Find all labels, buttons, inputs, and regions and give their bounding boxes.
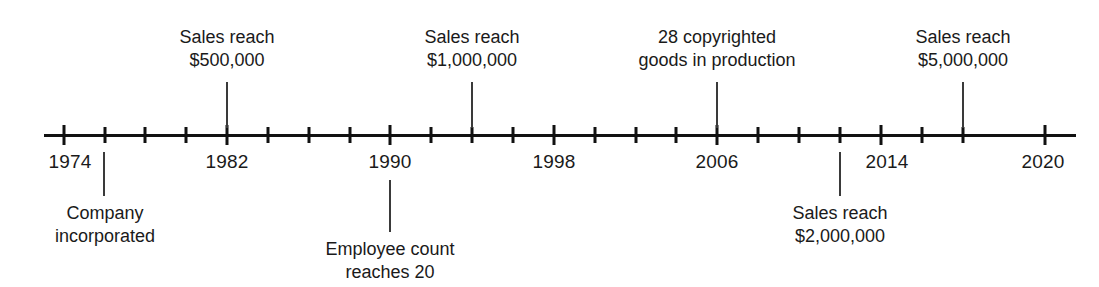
- axis-tick-1990: [389, 125, 392, 145]
- axis-tick-1996: [512, 127, 515, 143]
- year-label-1998: 1998: [532, 150, 575, 173]
- axis-tick-2020: [1044, 125, 1047, 145]
- axis-tick-2010: [798, 127, 801, 143]
- axis-tick-1986: [308, 127, 311, 143]
- timeline-figure: 1974198219901998200620142020 Sales reach…: [0, 0, 1099, 287]
- callout-line-1: Sales reach: [792, 202, 887, 225]
- axis-tick-1982: [226, 125, 229, 145]
- callout-line-2: $2,000,000: [792, 225, 887, 248]
- axis-tick-1976: [104, 127, 107, 143]
- callout-line-1: 28 copyrighted: [638, 26, 795, 49]
- axis-tick-2016: [921, 127, 924, 143]
- callout-sales-2m: Sales reach$2,000,000: [792, 202, 887, 248]
- leader-line-company-incorporated: [103, 152, 105, 196]
- axis-tick-2018: [962, 127, 965, 143]
- axis-tick-1984: [267, 127, 270, 143]
- axis-tick-1974: [63, 125, 66, 145]
- axis-tick-2002: [635, 127, 638, 143]
- callout-line-2: $5,000,000: [915, 49, 1010, 72]
- year-label-2020: 2020: [1021, 150, 1064, 173]
- callout-sales-500k: Sales reach$500,000: [179, 26, 274, 72]
- callout-line-2: incorporated: [55, 225, 155, 248]
- callout-line-1: Sales reach: [915, 26, 1010, 49]
- leader-line-sales-5m: [962, 82, 964, 128]
- callout-sales-5m: Sales reach$5,000,000: [915, 26, 1010, 72]
- axis-tick-2006: [716, 125, 719, 145]
- axis-tick-1992: [430, 127, 433, 143]
- year-label-2006: 2006: [695, 150, 738, 173]
- callout-line-2: reaches 20: [325, 261, 454, 284]
- callout-employee-count: Employee countreaches 20: [325, 238, 454, 284]
- axis-tick-1988: [349, 127, 352, 143]
- callout-line-1: Sales reach: [424, 26, 519, 49]
- callout-line-2: goods in production: [638, 49, 795, 72]
- callout-sales-1m: Sales reach$1,000,000: [424, 26, 519, 72]
- axis-tick-1980: [185, 127, 188, 143]
- callout-company-incorporated: Companyincorporated: [55, 202, 155, 248]
- axis-tick-2012: [839, 127, 842, 143]
- callout-line-2: $500,000: [179, 49, 274, 72]
- callout-copyrighted-goods: 28 copyrightedgoods in production: [638, 26, 795, 72]
- callout-line-2: $1,000,000: [424, 49, 519, 72]
- leader-line-copyrighted-goods: [716, 82, 718, 128]
- leader-line-employee-count: [389, 180, 391, 232]
- axis-tick-1998: [553, 125, 556, 145]
- axis-tick-2000: [594, 127, 597, 143]
- leader-line-sales-2m: [839, 152, 841, 196]
- axis-tick-1994: [471, 127, 474, 143]
- axis-tick-2014: [880, 125, 883, 145]
- year-label-1974: 1974: [48, 150, 91, 173]
- callout-line-1: Company: [55, 202, 155, 225]
- year-label-1990: 1990: [368, 150, 411, 173]
- callout-line-1: Employee count: [325, 238, 454, 261]
- axis-tick-1978: [144, 127, 147, 143]
- year-label-2014: 2014: [865, 150, 908, 173]
- axis-tick-2004: [675, 127, 678, 143]
- leader-line-sales-500k: [226, 82, 228, 128]
- callout-line-1: Sales reach: [179, 26, 274, 49]
- leader-line-sales-1m: [471, 82, 473, 128]
- year-label-1982: 1982: [205, 150, 248, 173]
- axis-tick-2008: [757, 127, 760, 143]
